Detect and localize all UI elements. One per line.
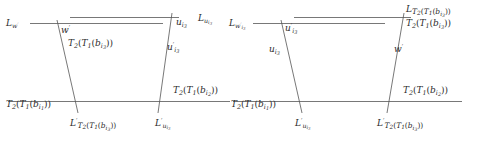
right-label-left-slant: ui3 (269, 45, 280, 56)
left-label-top-left: Lw′ (6, 19, 18, 29)
left-label-bottom-inner-left: L′T2(T1(bi3)) (70, 118, 116, 132)
right-label-right-mid: T2(T1(bi2)) (403, 86, 448, 97)
left-right-slant-line (158, 13, 172, 113)
right-label-bottom-inner-left: L′ui3 (295, 118, 311, 131)
left-label-bottom-left: T2(T1(bi1)) (6, 100, 51, 111)
left-label-bottom-inner-right: L′ui3 (155, 118, 171, 131)
left-label-u-i3: ui3 (176, 18, 187, 29)
left-label-right-slant: u′i3 (167, 42, 179, 54)
left-label-left-slant: T2(T1(bi3)) (68, 39, 113, 50)
right-label-top-right-lower: T2(T1(bi3)) (406, 19, 451, 30)
right-label-bottom-inner-right: L′T2(T1(bi3)) (377, 118, 423, 132)
left-label-right-mid: T2(T1(bi2)) (173, 86, 218, 97)
right-label-bottom-left: T2(T1(bi1)) (231, 100, 276, 111)
left-label-w-prime: w′ (61, 25, 70, 35)
right-slant-right-line (387, 13, 404, 113)
right-label-w-prime: w′ (394, 44, 403, 54)
right-label-u-prime-i3: u′i3 (285, 23, 297, 35)
figure-container: Lw′ w′ T2(T1(bi3)) ui3 Lui3 u′i3 T2(T1(b… (0, 0, 479, 142)
right-label-top-right-upper: LT2(T1(bi3)) (406, 5, 451, 18)
left-label-top-right: Lui3 (198, 14, 212, 26)
right-label-top-left: Lw′i3 (229, 19, 245, 31)
